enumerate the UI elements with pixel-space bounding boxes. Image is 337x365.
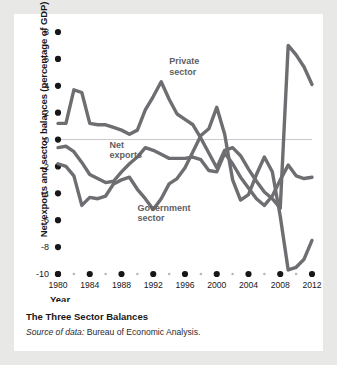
figure-caption: The Three Sector Balances Source of data… <box>26 311 316 337</box>
x-tick-label: 2012 <box>302 280 321 290</box>
x-tick-dot-minor <box>136 273 139 276</box>
line-chart-svg: 86420-2-4-6-8-10 19801984198819921996200… <box>14 14 323 302</box>
x-tick-dot-major <box>55 271 61 277</box>
y-tick-dot <box>55 56 61 62</box>
x-tick-label: 1988 <box>112 280 131 290</box>
figure-card: Net exports and sector balances (percent… <box>14 14 323 351</box>
y-tick-dot <box>55 110 61 116</box>
series-line <box>58 107 312 270</box>
y-tick-label: -10 <box>36 269 49 279</box>
y-tick-dot <box>55 29 61 35</box>
x-tick-dot-major <box>214 271 220 277</box>
series-annotation: Netexports <box>110 140 143 161</box>
x-tick-dot-minor <box>231 273 234 276</box>
series-annotation: Governmentsector <box>137 203 190 224</box>
x-tick-label: 1992 <box>144 280 163 290</box>
y-tick-dot <box>55 190 61 196</box>
x-tick-dot-major <box>182 271 188 277</box>
y-tick-dot <box>55 217 61 223</box>
x-tick-dot-minor <box>263 273 266 276</box>
x-tick-dot-minor <box>168 273 171 276</box>
source-value: Bureau of Economic Analysis. <box>87 327 201 337</box>
x-tick-dot-major <box>150 271 156 277</box>
series-annotation: Privatesector <box>169 56 199 76</box>
y-tick-dot <box>55 244 61 250</box>
x-tick-dot-major <box>309 271 315 277</box>
x-tick-dot-major <box>245 271 251 277</box>
x-tick-dot-major <box>118 271 124 277</box>
x-tick-label: 1980 <box>48 280 67 290</box>
x-axis-title: Year <box>50 294 70 302</box>
x-tick-label: 2000 <box>207 280 226 290</box>
x-tick-dot-minor <box>295 273 298 276</box>
x-tick-dot-minor <box>73 273 76 276</box>
source-label: Source of data: <box>26 327 84 337</box>
x-tick-dot-major <box>87 271 93 277</box>
figure-title: The Three Sector Balances <box>26 311 316 322</box>
y-axis-title: Net exports and sector balances (percent… <box>38 0 49 245</box>
figure-source: Source of data: Bureau of Economic Analy… <box>26 327 316 337</box>
x-tick-label: 2008 <box>271 280 290 290</box>
data-series-group <box>58 45 312 270</box>
x-axis-ticks: 198019841988199219962000200420082012 <box>48 271 321 290</box>
x-tick-dot-minor <box>104 273 107 276</box>
y-tick-dot <box>55 136 61 142</box>
x-tick-label: 2004 <box>239 280 258 290</box>
x-tick-label: 1984 <box>80 280 99 290</box>
chart-plot-area: Net exports and sector balances (percent… <box>14 14 323 302</box>
y-tick-dot <box>55 83 61 89</box>
x-tick-label: 1996 <box>175 280 194 290</box>
x-tick-dot-minor <box>200 273 203 276</box>
x-tick-dot-major <box>277 271 283 277</box>
